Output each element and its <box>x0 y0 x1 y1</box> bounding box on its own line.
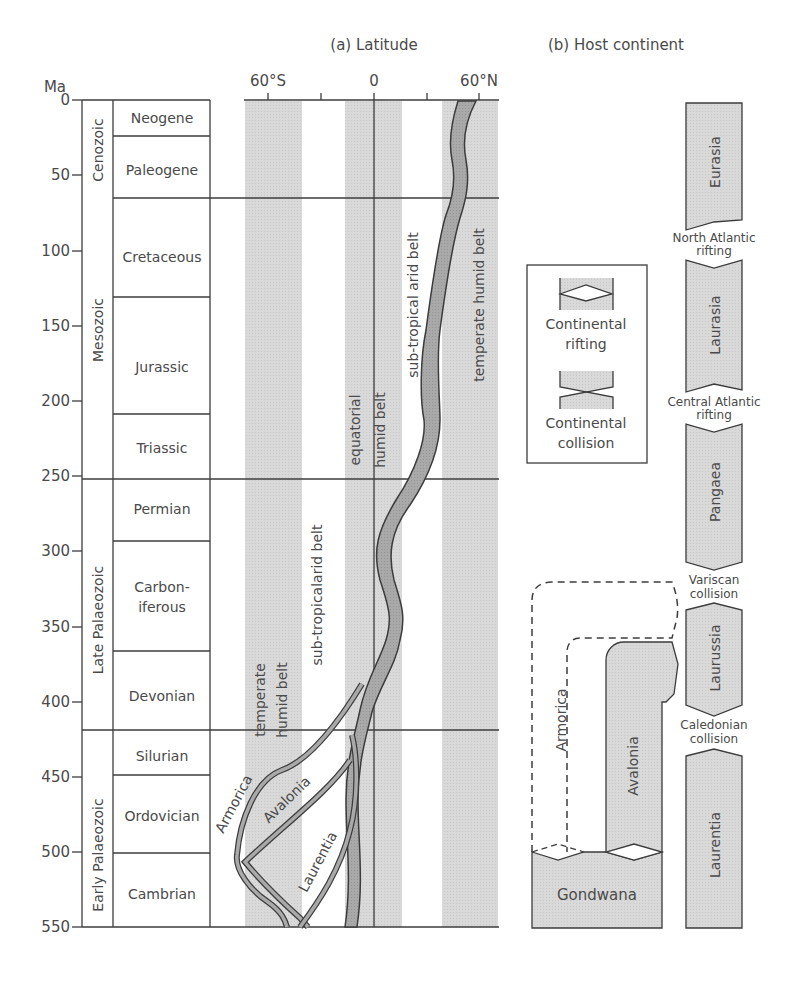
y-tick-0: 0 <box>60 91 70 109</box>
belt-subtropical-south: sub-tropicalarid belt <box>309 524 325 666</box>
event-variscan-1: Variscan <box>689 573 740 587</box>
label-gondwana: Gondwana <box>557 886 637 904</box>
era-late-palaeozoic: Late Palaeozoic <box>90 566 106 674</box>
legend: Continental rifting Continental collisio… <box>527 265 647 463</box>
era-labels: Cenozoic Mesozoic Late Palaeozoic Early … <box>90 118 106 911</box>
period-silurian: Silurian <box>136 748 189 764</box>
period-cretaceous: Cretaceous <box>123 249 202 265</box>
legend-rifting-2: rifting <box>565 336 606 352</box>
x-tick-60n: 60°N <box>460 72 498 90</box>
block-avalonia <box>606 642 678 852</box>
belt-temperate-south-2: humid belt <box>274 662 290 738</box>
label-avalonia: Avalonia <box>625 736 641 795</box>
latitude-title: (a) Latitude <box>330 36 417 54</box>
event-caledonian-1: Caledonian <box>680 718 747 732</box>
rift-symbol-armorica <box>532 844 584 852</box>
y-tick-100: 100 <box>41 242 70 260</box>
y-axis: 0 50 100 150 200 250 300 350 400 450 500… <box>41 91 82 936</box>
y-tick-50: 50 <box>51 166 70 184</box>
period-ordovician: Ordovician <box>124 808 199 824</box>
legend-collision-2: collision <box>558 435 615 451</box>
era-cenozoic: Cenozoic <box>90 118 106 181</box>
y-tick-400: 400 <box>41 693 70 711</box>
x-tick-0: 0 <box>369 72 379 90</box>
rifting-legend-icon <box>560 278 613 310</box>
y-tick-150: 150 <box>41 317 70 335</box>
legend-rifting-1: Continental <box>546 316 627 332</box>
event-north-atlantic-1: North Atlantic <box>672 231 755 245</box>
label-eurasia: Eurasia <box>707 136 723 188</box>
period-neogene: Neogene <box>131 110 194 126</box>
event-north-atlantic-2: rifting <box>696 244 732 258</box>
y-tick-300: 300 <box>41 542 70 560</box>
period-labels: Neogene Paleogene Cretaceous Jurassic Tr… <box>123 110 202 902</box>
y-tick-500: 500 <box>41 843 70 861</box>
event-caledonian-2: collision <box>690 732 738 746</box>
period-carboniferous-1: Carbon- <box>134 579 190 595</box>
period-jurassic: Jurassic <box>134 359 189 375</box>
belt-temperate-south-1: temperate <box>252 663 268 737</box>
y-tick-250: 250 <box>41 467 70 485</box>
label-pangaea: Pangaea <box>707 462 723 522</box>
belt-subtropical-north: sub-tropical arid belt <box>405 232 421 378</box>
period-paleogene: Paleogene <box>126 162 198 178</box>
label-armorica: Armorica <box>553 688 569 751</box>
period-carboniferous-2: iferous <box>138 599 186 615</box>
label-laurasia: Laurasia <box>707 295 723 354</box>
event-central-atlantic-1: Central Atlantic <box>667 395 760 409</box>
period-permian: Permian <box>133 501 190 517</box>
era-mesozoic: Mesozoic <box>90 298 106 362</box>
belt-temperate-north: temperate humid belt <box>471 228 487 382</box>
y-tick-550: 550 <box>41 918 70 936</box>
legend-collision-1: Continental <box>546 415 627 431</box>
period-devonian: Devonian <box>129 688 195 704</box>
belt-equatorial-1: equatorial <box>347 394 363 465</box>
host-continent-title: (b) Host continent <box>548 36 684 54</box>
y-tick-350: 350 <box>41 618 70 636</box>
y-tick-450: 450 <box>41 768 70 786</box>
y-tick-200: 200 <box>41 392 70 410</box>
period-cambrian: Cambrian <box>128 886 196 902</box>
event-variscan-2: collision <box>690 587 738 601</box>
host-continents: Eurasia North Atlantic rifting Laurasia … <box>532 103 761 928</box>
belt-equatorial-2: humid belt <box>372 392 388 468</box>
label-laurussia: Laurussia <box>707 625 723 692</box>
event-central-atlantic-2: rifting <box>696 408 732 422</box>
period-triassic: Triassic <box>136 440 188 456</box>
figure-canvas: (a) Latitude (b) Host continent Ma 0 50 … <box>0 0 790 985</box>
label-laurentia: Laurentia <box>707 812 723 878</box>
era-early-palaeozoic: Early Palaeozoic <box>90 798 106 911</box>
x-tick-60s: 60°S <box>250 72 286 90</box>
